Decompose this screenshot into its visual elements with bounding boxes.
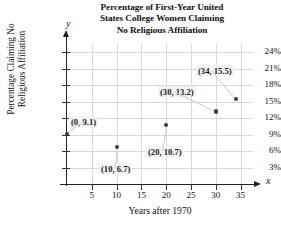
chart-title-line-3: No Religious Affiliation <box>62 25 262 36</box>
y-axis-tick <box>62 85 70 86</box>
caption-sliver <box>14 224 267 228</box>
data-point[interactable] <box>115 145 119 149</box>
x-axis-tick-label: 5 <box>79 190 105 200</box>
x-axis-tick-label: 30 <box>203 190 229 200</box>
y-axis-title: Percentage Claiming No Religious Affilia… <box>6 0 28 144</box>
x-axis-line <box>60 184 256 185</box>
gridline-vertical <box>166 44 167 184</box>
y-axis-title-line-2: Religious Affiliation <box>17 0 28 144</box>
gridline-vertical <box>191 44 192 184</box>
y-axis-tick-label: 24% <box>223 46 281 56</box>
y-axis-tick <box>62 69 70 70</box>
x-axis-letter: x <box>266 175 270 186</box>
chart-title-line-2: States College Women Claiming <box>62 13 262 24</box>
y-axis-tick-label: 18% <box>223 79 281 89</box>
y-axis-tick-label: 12% <box>223 112 281 122</box>
y-axis-tick-label: 9% <box>223 129 281 139</box>
x-axis-tick-label: 10 <box>104 190 130 200</box>
x-axis-tick-label: 20 <box>153 190 179 200</box>
x-axis-tick-label: 35 <box>228 190 254 200</box>
chart-title: Percentage of First-Year United States C… <box>62 2 262 36</box>
y-axis-tick-label: 15% <box>223 96 281 106</box>
data-point-annotation: (20, 10.7) <box>146 146 184 157</box>
y-axis-tick <box>62 102 70 103</box>
x-axis-tick-label: 25 <box>178 190 204 200</box>
y-axis-tick-label: 3% <box>223 162 281 172</box>
chart-title-line-1: Percentage of First-Year United <box>62 2 262 13</box>
gridline-vertical <box>141 44 142 184</box>
chart-figure: Percentage of First-Year United States C… <box>0 0 281 229</box>
y-axis-letter: y <box>66 18 70 29</box>
y-axis-title-line-1: Percentage Claiming No <box>6 0 17 144</box>
y-axis-tick <box>62 151 70 152</box>
y-axis-tick <box>62 52 70 53</box>
data-point[interactable] <box>234 97 238 101</box>
data-point[interactable] <box>214 109 218 113</box>
x-axis-arrow-icon <box>254 181 261 187</box>
y-axis-tick-label: 6% <box>223 145 281 155</box>
x-axis-title: Years after 1970 <box>60 205 260 216</box>
gridline-vertical <box>92 44 93 184</box>
y-axis-arrow-icon <box>63 30 69 37</box>
y-axis-line <box>66 36 67 186</box>
y-axis-tick <box>62 168 70 169</box>
x-axis-tick-label: 15 <box>128 190 154 200</box>
